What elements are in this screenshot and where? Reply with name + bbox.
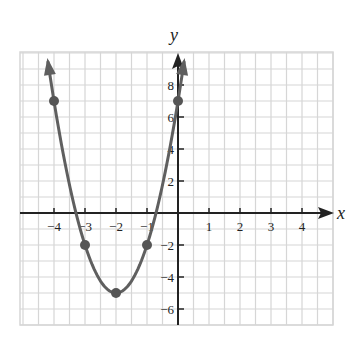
y-axis-label: y — [168, 25, 178, 45]
parabola-graph: −4−3−2−112348642−2−4−6 x y — [0, 0, 363, 339]
y-tick-label: 2 — [168, 174, 175, 189]
grid — [20, 52, 333, 325]
y-tick-label: −6 — [160, 302, 174, 317]
data-point — [142, 240, 152, 250]
data-point — [111, 288, 121, 298]
data-point — [80, 240, 90, 250]
x-tick-label: −2 — [109, 219, 123, 234]
x-tick-label: 3 — [268, 219, 275, 234]
x-tick-label: 4 — [299, 219, 306, 234]
data-point — [49, 96, 59, 106]
y-tick-label: −4 — [160, 270, 174, 285]
y-tick-label: 8 — [168, 78, 175, 93]
y-tick-label: −2 — [160, 238, 174, 253]
x-tick-label: 1 — [206, 219, 213, 234]
x-tick-label: −4 — [47, 219, 61, 234]
data-point — [173, 96, 183, 106]
x-tick-label: 2 — [237, 219, 244, 234]
x-axis-label: x — [336, 203, 345, 223]
